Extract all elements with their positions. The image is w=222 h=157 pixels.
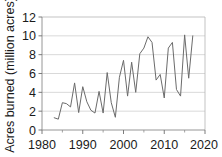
y-tick-label: 4	[29, 86, 36, 100]
x-tick-label: 2000	[110, 138, 138, 152]
x-tick-label: 1980	[28, 138, 56, 152]
x-tick-label: 2020	[190, 138, 218, 152]
y-tick-marks	[39, 17, 43, 130]
y-tick-label: 0	[29, 124, 36, 138]
y-axis-title: Acres burned (million acres)	[3, 0, 17, 153]
y-tick-label: 12	[22, 11, 36, 25]
x-tick-label: 1990	[69, 138, 97, 152]
line-chart: 12 10 8 6 4 2 0 1980 1990 2000 2010 2020…	[0, 0, 222, 157]
y-tick-labels: 12 10 8 6 4 2 0	[22, 11, 36, 138]
x-tick-labels: 1980 1990 2000 2010 2020	[28, 138, 218, 152]
x-tick-marks	[42, 130, 205, 134]
y-tick-label: 8	[29, 48, 36, 62]
x-tick-label: 2010	[150, 138, 178, 152]
y-tick-label: 10	[22, 29, 36, 43]
y-tick-label: 2	[29, 105, 36, 119]
chart-container: 12 10 8 6 4 2 0 1980 1990 2000 2010 2020…	[0, 0, 222, 157]
y-tick-label: 6	[29, 67, 36, 81]
